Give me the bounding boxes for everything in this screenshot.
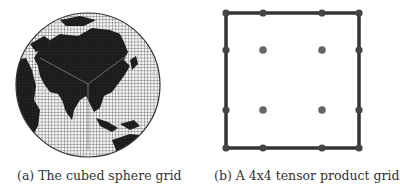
caption-b: (b) A 4x4 tensor product grid — [214, 168, 400, 183]
panel-cubed-sphere: (a) The cubed sphere grid — [0, 0, 192, 193]
grid-nodes — [222, 9, 362, 151]
tensor-product-grid — [192, 0, 384, 193]
interior-nodes — [259, 46, 326, 114]
grid-boundary — [226, 13, 359, 148]
cubed-sphere-globe — [0, 0, 192, 193]
panel-tensor-grid: (b) A 4x4 tensor product grid — [192, 0, 384, 193]
caption-a: (a) The cubed sphere grid — [17, 168, 182, 183]
